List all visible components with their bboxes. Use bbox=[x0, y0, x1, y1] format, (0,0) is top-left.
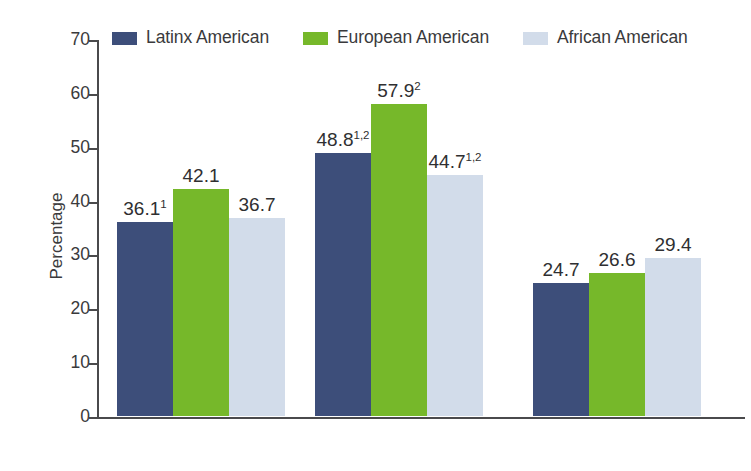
bar-value-label: 36.7 bbox=[239, 195, 276, 214]
y-axis-tick-label: 50 bbox=[71, 139, 90, 157]
bar-group: 48.81,257.9244.71,2 bbox=[315, 39, 483, 416]
y-axis-tick-mark bbox=[89, 94, 97, 96]
x-axis-line bbox=[97, 417, 745, 419]
y-axis-title: Percentage bbox=[47, 192, 67, 279]
bar-value-label: 29.4 bbox=[655, 235, 692, 254]
grouped-bar-chart: Latinx American European American Africa… bbox=[0, 0, 751, 471]
y-axis-tick-mark bbox=[89, 148, 97, 150]
bar-group: 36.1142.136.7 bbox=[117, 39, 285, 416]
bar-value-label: 57.92 bbox=[377, 81, 420, 100]
y-axis-tick-label: 30 bbox=[71, 247, 90, 265]
bar-value-label: 36.11 bbox=[123, 199, 166, 218]
y-axis-line bbox=[97, 40, 99, 419]
y-axis-tick-mark bbox=[89, 40, 97, 42]
y-axis-tick-mark bbox=[89, 255, 97, 257]
bar-value-label: 44.71,2 bbox=[429, 152, 482, 171]
bar: 24.7 bbox=[533, 283, 589, 416]
bar: 42.1 bbox=[173, 189, 229, 416]
bar-value-label: 24.7 bbox=[543, 260, 580, 279]
bar: 36.11 bbox=[117, 222, 173, 416]
bar-value-label: 48.81,2 bbox=[317, 130, 370, 149]
y-axis-tick-label: 40 bbox=[71, 193, 90, 211]
y-axis-tick-label: 60 bbox=[71, 85, 90, 103]
plot-area: 706050403020100 36.1142.136.748.81,257.9… bbox=[97, 40, 745, 418]
y-axis-tick-mark bbox=[89, 363, 97, 365]
bar: 26.6 bbox=[589, 273, 645, 416]
bar: 36.7 bbox=[229, 218, 285, 416]
bar-group: 24.726.629.4 bbox=[533, 39, 701, 416]
bar-value-label: 42.1 bbox=[183, 166, 220, 185]
y-axis-tick-label: 70 bbox=[71, 31, 90, 49]
bar-value-label: 26.6 bbox=[599, 250, 636, 269]
y-axis-tick-mark bbox=[89, 309, 97, 311]
y-axis-tick-label: 0 bbox=[80, 408, 90, 426]
bar: 57.92 bbox=[371, 104, 427, 416]
bar: 29.4 bbox=[645, 258, 701, 416]
y-axis-tick-label: 20 bbox=[71, 301, 90, 319]
y-axis-tick-mark bbox=[89, 202, 97, 204]
bar: 48.81,2 bbox=[315, 153, 371, 416]
bar: 44.71,2 bbox=[427, 175, 483, 416]
y-axis-tick-label: 10 bbox=[71, 354, 90, 372]
